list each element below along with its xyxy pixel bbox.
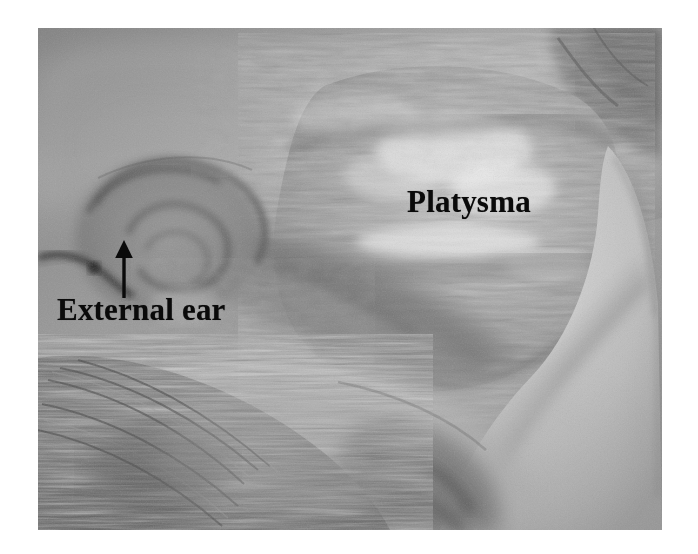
figure-root: Platysma External ear <box>0 0 698 554</box>
vignette-overlay <box>38 28 662 530</box>
dissection-photograph <box>38 28 662 530</box>
photograph-canvas <box>38 28 662 530</box>
